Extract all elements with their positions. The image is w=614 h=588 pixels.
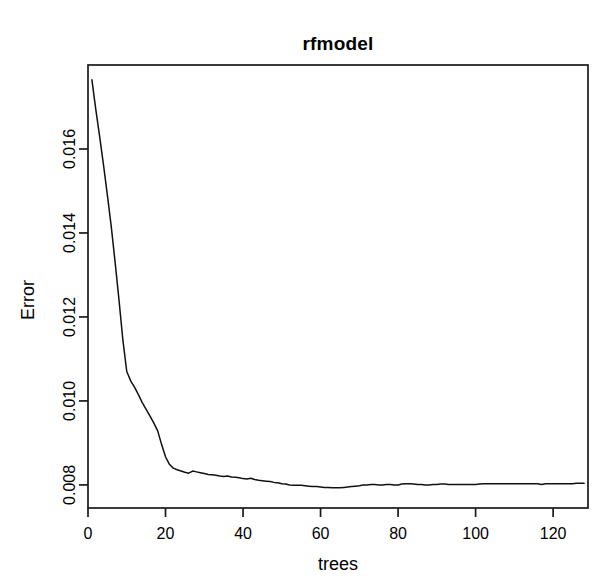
x-tick-label: 40	[234, 525, 252, 542]
x-tick-label: 100	[462, 525, 489, 542]
y-tick-label: 0.016	[62, 129, 79, 169]
x-tick-label: 80	[389, 525, 407, 542]
y-tick-label: 0.012	[62, 297, 79, 337]
y-tick-label: 0.014	[62, 213, 79, 253]
y-axis-title: Error	[18, 280, 38, 320]
plot-background	[0, 0, 614, 588]
y-tick-label: 0.008	[62, 465, 79, 505]
x-tick-label: 120	[540, 525, 567, 542]
x-tick-label: 60	[312, 525, 330, 542]
x-tick-label: 20	[157, 525, 175, 542]
rfmodel-error-plot: rfmodel 0.0080.0100.0120.0140.016 020406…	[0, 0, 614, 588]
y-tick-label: 0.010	[62, 381, 79, 421]
chart-title: rfmodel	[302, 33, 373, 54]
x-tick-label: 0	[84, 525, 93, 542]
x-axis-title: trees	[318, 554, 358, 574]
chart-canvas: rfmodel 0.0080.0100.0120.0140.016 020406…	[0, 0, 614, 588]
